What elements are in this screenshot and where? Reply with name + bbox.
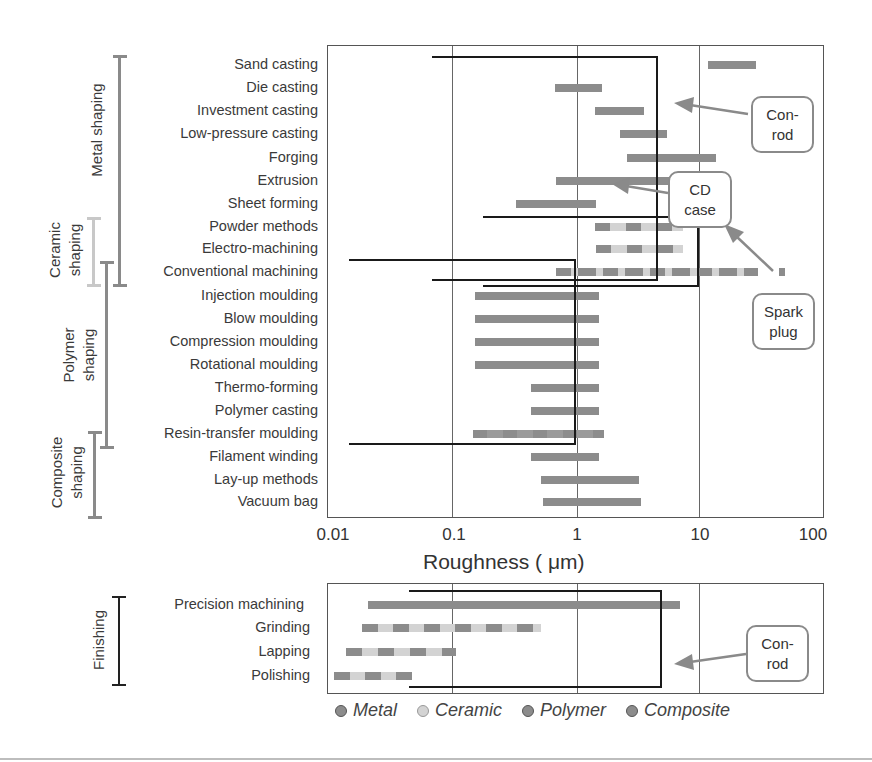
row-label-forging: Forging bbox=[269, 149, 318, 165]
row-label-filament-winding: Filament winding bbox=[209, 448, 318, 464]
callout-finishing-con-rod: Con-rod bbox=[746, 625, 809, 682]
metal-bracket-line bbox=[118, 56, 121, 286]
callout-spark-plug: Sparkplug bbox=[752, 293, 815, 350]
metal-bracket-cap-bottom bbox=[113, 284, 127, 287]
callout-finishing-con-rod-line1: Con- bbox=[761, 635, 794, 652]
x-tick-10: 10 bbox=[691, 525, 710, 545]
legend-item-ceramic: Ceramic bbox=[417, 700, 502, 721]
main-plot-area: Con-rod Sparkplug CDcase bbox=[327, 45, 824, 518]
row-label-resin-transfer-moulding: Resin-transfer moulding bbox=[164, 425, 318, 441]
row-label-sand-casting: Sand casting bbox=[234, 56, 318, 72]
row-label-sheet-forming: Sheet forming bbox=[228, 195, 318, 211]
callout-cd-case: CDcase bbox=[668, 171, 732, 228]
row-label-compression-moulding: Compression moulding bbox=[170, 333, 318, 349]
row-label-polymer-casting: Polymer casting bbox=[215, 402, 318, 418]
x-tick-0.1: 0.1 bbox=[442, 525, 466, 545]
finishing-bracket-cap-top bbox=[112, 596, 126, 598]
row-label-polishing: Polishing bbox=[251, 667, 310, 683]
callout-con-rod: Con-rod bbox=[751, 96, 814, 153]
ceramic-bracket-cap-top bbox=[87, 217, 101, 220]
legend-label-ceramic: Ceramic bbox=[435, 700, 502, 721]
legend-label-metal: Metal bbox=[353, 700, 397, 721]
bottom-divider bbox=[0, 758, 872, 760]
group-label-ceramic-2: shaping bbox=[66, 210, 83, 290]
callout-con-rod-line2: rod bbox=[772, 126, 794, 143]
polymer-bracket-cap-top bbox=[100, 261, 114, 264]
group-label-polymer-2: shaping bbox=[80, 310, 97, 400]
row-label-die-casting: Die casting bbox=[246, 79, 318, 95]
legend-dot-composite-icon bbox=[626, 705, 638, 717]
row-label-extrusion: Extrusion bbox=[258, 172, 318, 188]
ceramic-bracket-cap-bottom bbox=[87, 284, 101, 287]
legend-item-metal: Metal bbox=[335, 700, 397, 721]
row-label-lay-up-methods: Lay-up methods bbox=[214, 471, 318, 487]
arrow-head-cd-case bbox=[612, 177, 630, 194]
x-tick-100: 100 bbox=[799, 525, 827, 545]
row-label-thermo-forming: Thermo-forming bbox=[215, 379, 318, 395]
legend-item-polymer: Polymer bbox=[522, 700, 606, 721]
group-label-composite-1: Composite bbox=[48, 425, 65, 520]
group-label-polymer-1: Polymer bbox=[60, 310, 77, 400]
callout-cd-case-line1: CD bbox=[689, 181, 711, 198]
finishing-plot-area: Con-rod bbox=[327, 583, 824, 694]
callout-con-rod-line1: Con- bbox=[766, 106, 799, 123]
callout-spark-plug-line2: plug bbox=[769, 323, 797, 340]
arrow-head-con-rod bbox=[674, 97, 694, 113]
row-label-lapping: Lapping bbox=[258, 643, 310, 659]
row-label-precision-machining: Precision machining bbox=[174, 596, 304, 612]
row-label-injection-moulding: Injection moulding bbox=[201, 287, 318, 303]
legend-dot-metal-icon bbox=[335, 705, 347, 717]
x-tick-0.01: 0.01 bbox=[316, 525, 349, 545]
legend: Metal Ceramic Polymer Composite bbox=[335, 700, 730, 721]
legend-label-polymer: Polymer bbox=[540, 700, 606, 721]
group-label-ceramic-1: Ceramic bbox=[46, 210, 63, 290]
legend-item-composite: Composite bbox=[626, 700, 730, 721]
row-label-conventional-machining: Conventional machining bbox=[163, 263, 318, 279]
ceramic-bracket-line bbox=[92, 218, 95, 286]
row-label-investment-casting: Investment casting bbox=[197, 102, 318, 118]
group-label-metal: Metal shaping bbox=[88, 60, 105, 200]
polymer-bracket-cap-bottom bbox=[100, 446, 114, 449]
row-label-vacuum-bag: Vacuum bag bbox=[238, 493, 318, 509]
row-label-electro-machining: Electro-machining bbox=[202, 240, 318, 256]
callout-cd-case-line2: case bbox=[684, 201, 716, 218]
finishing-bracket-line bbox=[118, 597, 120, 685]
group-label-composite-2: shaping bbox=[68, 425, 85, 520]
legend-label-composite: Composite bbox=[644, 700, 730, 721]
composite-bracket-line bbox=[93, 432, 96, 518]
row-labels: Sand casting Die casting Investment cast… bbox=[0, 0, 318, 762]
legend-dot-polymer-icon bbox=[522, 705, 534, 717]
row-label-powder-methods: Powder methods bbox=[209, 218, 318, 234]
composite-bracket-cap-bottom bbox=[88, 516, 102, 519]
composite-bracket-cap-top bbox=[88, 431, 102, 434]
legend-dot-ceramic-icon bbox=[417, 705, 429, 717]
x-axis-label: Roughness ( μm) bbox=[423, 550, 585, 574]
row-label-low-pressure-casting: Low-pressure casting bbox=[180, 125, 318, 141]
arrow-head-finishing-con-rod bbox=[674, 654, 694, 670]
callout-spark-plug-line1: Spark bbox=[764, 303, 803, 320]
group-label-finishing: Finishing bbox=[90, 600, 107, 680]
row-label-rotational-moulding: Rotational moulding bbox=[190, 356, 318, 372]
row-label-grinding: Grinding bbox=[255, 619, 310, 635]
metal-bracket-cap-top bbox=[113, 55, 127, 58]
row-label-blow-moulding: Blow moulding bbox=[224, 310, 318, 326]
finishing-bracket-cap-bottom bbox=[112, 684, 126, 686]
callout-finishing-con-rod-line2: rod bbox=[767, 655, 789, 672]
x-tick-1: 1 bbox=[572, 525, 581, 545]
polymer-bracket-line bbox=[105, 262, 108, 448]
